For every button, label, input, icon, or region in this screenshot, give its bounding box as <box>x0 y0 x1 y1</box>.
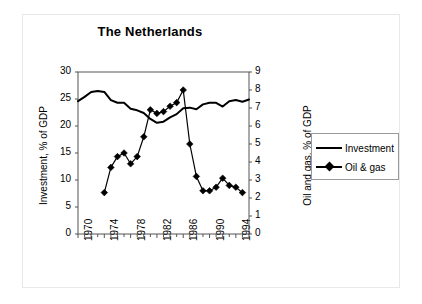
legend-item-oil-gas: Oil & gas <box>316 159 386 175</box>
chart-container: The Netherlands Investment, % of GDP Oil… <box>0 0 422 304</box>
data-point-marker <box>108 164 115 171</box>
legend-label-investment: Investment <box>345 143 394 154</box>
line-swatch-icon <box>316 142 342 154</box>
series-line-investment <box>78 91 249 123</box>
line-diamond-swatch-icon <box>316 161 342 173</box>
data-point-marker <box>121 150 128 157</box>
plot-frame <box>78 72 249 234</box>
data-point-marker <box>101 189 108 196</box>
data-point-marker <box>180 87 187 94</box>
data-point-marker <box>154 110 161 117</box>
legend-label-oil-gas: Oil & gas <box>345 162 386 173</box>
data-point-marker <box>147 107 154 114</box>
data-point-marker <box>173 99 180 106</box>
chart-legend: Investment Oil & gas <box>311 133 399 180</box>
data-point-marker <box>187 141 194 148</box>
data-point-marker <box>200 188 207 195</box>
data-point-marker <box>140 134 147 141</box>
data-point-marker <box>114 153 121 160</box>
data-point-marker <box>206 188 213 195</box>
data-point-marker <box>193 173 200 180</box>
legend-item-investment: Investment <box>316 140 394 156</box>
